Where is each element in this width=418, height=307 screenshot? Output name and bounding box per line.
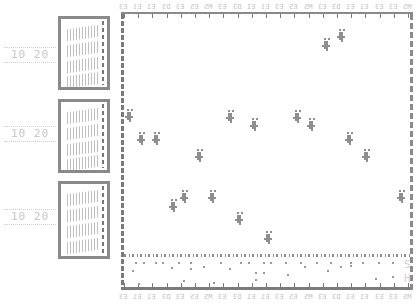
panel-label-3: 10 20 xyxy=(4,209,56,225)
thumbnail-panel-2[interactable] xyxy=(58,99,110,173)
axis-tick xyxy=(280,14,281,18)
glyph-marker xyxy=(234,212,244,224)
axis-tick-label: E1 xyxy=(247,3,255,11)
axis-tick xyxy=(252,14,253,18)
right-label-s: S xyxy=(404,258,411,271)
data-point xyxy=(162,262,164,264)
axis-tick-label: M5 xyxy=(204,3,212,11)
axis-tick-label: M5 xyxy=(204,293,212,301)
left-scroll-track[interactable] xyxy=(121,14,124,290)
data-point xyxy=(285,262,287,264)
thumb-glyph-row xyxy=(67,140,99,156)
data-point xyxy=(300,262,302,264)
data-point xyxy=(190,262,192,264)
axis-tick xyxy=(252,283,253,287)
glyph-marker xyxy=(263,231,273,243)
data-point xyxy=(240,262,242,264)
thumb-glyph-row xyxy=(67,222,99,238)
data-point xyxy=(263,262,265,264)
thumb-glyph-row xyxy=(67,57,99,73)
axis-tick-label: E3 xyxy=(119,293,127,301)
data-point xyxy=(392,276,394,278)
data-point xyxy=(155,262,157,264)
axis-tick-label: E5 xyxy=(190,293,198,301)
glyph-marker xyxy=(336,29,346,41)
axis-tick-label: D3 xyxy=(332,293,340,301)
thumbnail-panel-1[interactable] xyxy=(58,16,110,90)
axis-tick xyxy=(394,283,395,287)
axis-tick-label: E1 xyxy=(147,293,155,301)
axis-tick xyxy=(294,283,295,287)
thumb-scrollbar[interactable] xyxy=(102,186,104,254)
axis-tick-label: E3 xyxy=(176,3,184,11)
thumb-glyph-row xyxy=(67,206,99,222)
axis-tick-label: D3 xyxy=(233,3,241,11)
axis-tick-label: M5 xyxy=(403,293,411,301)
axis-tick xyxy=(181,14,182,18)
axis-tick-label: E5 xyxy=(289,3,297,11)
glyph-marker xyxy=(179,190,189,202)
axis-tick-label: E1 xyxy=(147,3,155,11)
axis-tick xyxy=(380,283,381,287)
subpanel-track xyxy=(124,254,410,257)
glyph-marker xyxy=(225,110,235,122)
axis-tick-label: E3 xyxy=(119,3,127,11)
thumb-glyph-row xyxy=(67,72,99,88)
axis-tick xyxy=(323,283,324,287)
thumb-glyph-row xyxy=(67,238,99,254)
axis-tick xyxy=(280,283,281,287)
axis-tick-label: M5 xyxy=(304,293,312,301)
axis-tick xyxy=(309,283,310,287)
axis-tick-label: E3 xyxy=(389,293,397,301)
axis-tick-label: E1 xyxy=(261,3,269,11)
data-point xyxy=(375,278,377,280)
axis-tick xyxy=(351,283,352,287)
axis-tick-label: D3 xyxy=(162,3,170,11)
data-point xyxy=(255,279,257,281)
data-point xyxy=(135,262,137,264)
axis-tick xyxy=(152,283,153,287)
glyph-marker xyxy=(151,132,161,144)
axis-tick-label: E1 xyxy=(360,3,368,11)
thumbnail-panel-3[interactable] xyxy=(58,181,110,259)
axis-tick xyxy=(181,283,182,287)
axis-tick xyxy=(124,14,125,18)
axis-tick xyxy=(323,14,324,18)
data-point xyxy=(327,270,329,272)
data-point xyxy=(171,267,173,269)
data-point xyxy=(330,262,332,264)
glyph-marker xyxy=(194,149,204,161)
axis-tick xyxy=(309,14,310,18)
axis-tick xyxy=(337,14,338,18)
axis-tick xyxy=(209,14,210,18)
thumb-scrollbar[interactable] xyxy=(102,21,104,85)
axis-tick xyxy=(337,283,338,287)
axis-tick-label: E3 xyxy=(275,293,283,301)
bottom-axis xyxy=(121,287,413,290)
glyph-marker xyxy=(306,118,316,130)
axis-tick-label: D3 xyxy=(162,293,170,301)
axis-tick xyxy=(195,14,196,18)
data-point xyxy=(190,268,192,270)
axis-tick-label: E3 xyxy=(176,293,184,301)
axis-tick xyxy=(195,283,196,287)
data-point xyxy=(350,265,352,267)
axis-tick xyxy=(238,283,239,287)
data-point xyxy=(362,262,364,264)
right-scroll-track[interactable] xyxy=(410,14,413,290)
thumb-glyph-row xyxy=(67,41,99,57)
thumb-scrollbar[interactable] xyxy=(102,104,104,168)
data-point xyxy=(220,262,222,264)
axis-tick xyxy=(167,283,168,287)
axis-tick xyxy=(365,14,366,18)
data-point xyxy=(340,266,342,268)
axis-tick-label: E5 xyxy=(190,3,198,11)
glyph-marker xyxy=(249,118,259,130)
glyph-marker xyxy=(292,110,302,122)
thumb-glyph-row xyxy=(67,155,99,171)
axis-tick xyxy=(294,14,295,18)
glyph-marker xyxy=(344,132,354,144)
axis-tick-label: E1 xyxy=(346,293,354,301)
axis-tick xyxy=(167,14,168,18)
glyph-marker xyxy=(396,190,406,202)
